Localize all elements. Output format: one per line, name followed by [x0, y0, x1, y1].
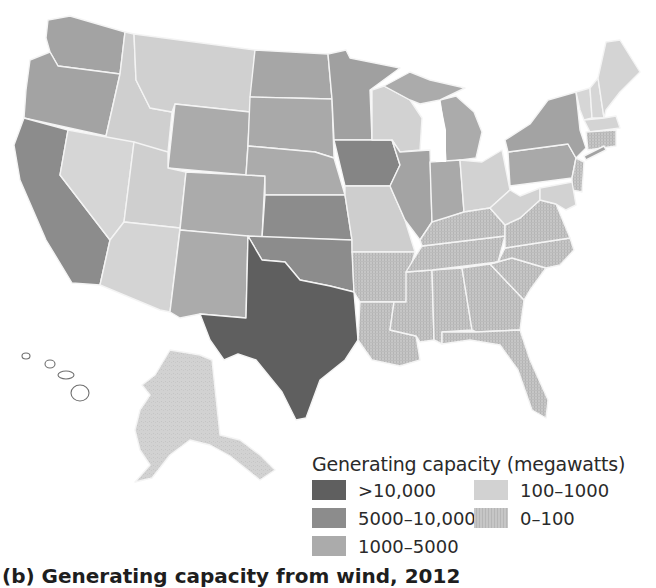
state-new-mexico — [170, 230, 248, 318]
state-iowa — [334, 140, 400, 186]
legend-label: 1000–5000 — [358, 536, 459, 557]
state-indiana — [430, 160, 464, 222]
state-colorado — [180, 172, 265, 238]
legend-item-over-10000: >10,000 — [312, 479, 462, 501]
legend-title: Generating capacity (megawatts) — [312, 453, 656, 475]
legend-item-0-100: 0–100 — [474, 507, 656, 529]
legend-swatch — [312, 480, 346, 500]
legend-swatch — [312, 536, 346, 556]
legend: Generating capacity (megawatts) >10,000 … — [312, 453, 656, 557]
legend-label: 100–1000 — [520, 480, 609, 501]
state-montana — [134, 34, 255, 112]
legend-label: 0–100 — [520, 508, 575, 529]
state-florida — [442, 330, 548, 418]
state-michigan — [440, 96, 482, 162]
legend-label: 5000–10,000 — [358, 508, 476, 529]
state-north-dakota — [250, 50, 332, 99]
legend-label: >10,000 — [358, 480, 436, 501]
state-kansas — [262, 195, 352, 240]
legend-swatch — [312, 508, 346, 528]
state-wyoming — [168, 104, 250, 175]
legend-item-5000-10000: 5000–10,000 — [312, 507, 462, 529]
figure-caption: (b) Generating capacity from wind, 2012 — [2, 564, 460, 588]
legend-item-100-1000: 100–1000 — [474, 479, 656, 501]
legend-swatch — [474, 480, 508, 500]
state-alaska — [135, 350, 275, 482]
legend-item-1000-5000: 1000–5000 — [312, 535, 462, 557]
state-hawaii — [22, 353, 89, 401]
state-maine — [598, 40, 640, 118]
legend-swatch — [474, 508, 508, 528]
